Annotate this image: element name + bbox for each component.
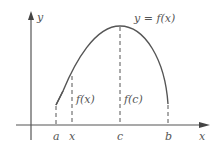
fx-label: f(x) [75,93,95,106]
tick-label-c: c [117,130,123,143]
tick-label-a: a [53,130,60,143]
x-axis-arrow-icon [199,122,210,128]
diagram-canvas: y y = f(x) f(x) f(c) a x c b x [0,0,221,148]
curve-start-segment [56,91,63,105]
tick-label-x: x [69,130,76,143]
fc-label: f(c) [123,93,143,106]
function-diagram: y y = f(x) f(x) f(c) a x c b x [0,0,221,148]
tick-label-b: b [165,130,172,143]
curve-label: y = f(x) [133,12,175,25]
curve-f [56,26,168,105]
x-axis-label: x [199,130,206,143]
y-axis-label: y [36,11,44,24]
y-axis-arrow-icon [28,11,34,20]
